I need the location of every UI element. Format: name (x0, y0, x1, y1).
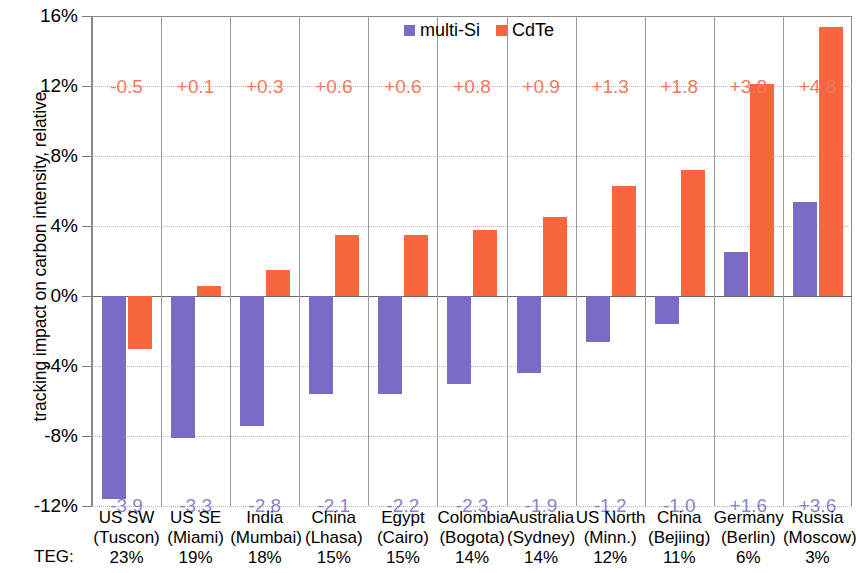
category-line2: (Moscow) (783, 528, 852, 548)
category-line1: US SW (92, 508, 161, 528)
y-tick (82, 366, 92, 367)
bar-multi-si (724, 252, 748, 296)
cdte-data-label: +0.6 (368, 76, 437, 98)
category-line1: Australia (507, 508, 576, 528)
x-axis-category: India(Mumbai)18% (230, 508, 299, 568)
cdte-data-label: +0.6 (299, 76, 368, 98)
category-line1: China (645, 508, 714, 528)
cdte-data-label: +3.8 (714, 76, 783, 98)
category-teg-value: 6% (714, 548, 783, 568)
bar-multi-si (447, 296, 471, 384)
category-teg-value: 18% (230, 548, 299, 568)
bar-cdte (612, 186, 636, 296)
cdte-data-label: +1.3 (576, 76, 645, 98)
bar-multi-si (793, 202, 817, 297)
y-tick-label: 16% (40, 5, 78, 27)
y-tick-label: -12% (34, 495, 78, 517)
bar-group: +0.8-2.3 (437, 16, 506, 506)
category-line2: (Lhasa) (299, 528, 368, 548)
y-tick-label: 0% (51, 285, 78, 307)
bar-group: +1.3-1.2 (576, 16, 645, 506)
category-line2: (Minn.) (576, 528, 645, 548)
y-tick-label: 4% (51, 215, 78, 237)
bar-multi-si (378, 296, 402, 394)
x-axis-category: US SE(Miami)19% (161, 508, 230, 568)
category-teg-value: 11% (645, 548, 714, 568)
bar-cdte (473, 230, 497, 297)
category-teg-value: 15% (368, 548, 437, 568)
legend-item-cdte: CdTe (496, 20, 554, 41)
category-line2: (Mumbai) (230, 528, 299, 548)
cdte-data-label: +1.8 (645, 76, 714, 98)
bar-multi-si (586, 296, 610, 342)
y-tick (82, 156, 92, 157)
bar-group: +0.6-2.1 (299, 16, 368, 506)
bar-cdte (266, 270, 290, 296)
bar-group: +0.1-3.3 (161, 16, 230, 506)
y-tick (82, 506, 92, 507)
category-line1: US North (576, 508, 645, 528)
legend: multi-Si CdTe (404, 20, 554, 41)
legend-swatch-multi-si (404, 25, 415, 36)
y-tick-label: 12% (40, 75, 78, 97)
category-line2: (Cairo) (368, 528, 437, 548)
x-axis-category: US North(Minn.)12% (576, 508, 645, 568)
x-axis-category: Egypt(Cairo)15% (368, 508, 437, 568)
cdte-data-label: +0.3 (230, 76, 299, 98)
y-tick (82, 86, 92, 87)
x-axis-category: Russia(Moscow)3% (783, 508, 852, 568)
category-teg-value: 3% (783, 548, 852, 568)
bar-group: +0.3-2.8 (230, 16, 299, 506)
category-line1: Egypt (368, 508, 437, 528)
category-line1: Russia (783, 508, 852, 528)
legend-swatch-cdte (496, 25, 507, 36)
bar-cdte (197, 286, 221, 297)
y-tick (82, 436, 92, 437)
cdte-data-label: +4.8 (783, 76, 852, 98)
x-axis-labels: US SW(Tuscon)23%US SE(Miami)19%India(Mum… (92, 508, 852, 573)
cdte-data-label: +0.1 (161, 76, 230, 98)
bar-multi-si (171, 296, 195, 438)
category-line2: (Bejiing) (645, 528, 714, 548)
bar-cdte (128, 296, 152, 349)
cdte-data-label: -0.5 (92, 76, 161, 98)
category-line1: Germany (714, 508, 783, 528)
bar-multi-si (102, 296, 126, 499)
category-line2: (Berlin) (714, 528, 783, 548)
y-tick-label: -4% (44, 355, 78, 377)
bar-group: +0.6-2.2 (368, 16, 437, 506)
bar-group: +3.8+1.6 (714, 16, 783, 506)
bar-group: +4.8+3.6 (783, 16, 852, 506)
category-teg-value: 14% (507, 548, 576, 568)
teg-row-label: TEG: (34, 547, 74, 567)
x-axis-category: China(Bejiing)11% (645, 508, 714, 568)
legend-label-cdte: CdTe (512, 20, 554, 41)
y-tick (82, 296, 92, 297)
bar-group: +0.9-1.9 (507, 16, 576, 506)
bar-cdte (404, 235, 428, 296)
y-tick-label: 8% (51, 145, 78, 167)
category-line1: India (230, 508, 299, 528)
cdte-data-label: +0.9 (507, 76, 576, 98)
category-line2: (Sydney) (507, 528, 576, 548)
category-line2: (Tuscon) (92, 528, 161, 548)
category-line1: US SE (161, 508, 230, 528)
category-teg-value: 15% (299, 548, 368, 568)
bar-cdte (543, 217, 567, 296)
bar-group: +1.8-1.0 (645, 16, 714, 506)
cdte-data-label: +0.8 (437, 76, 506, 98)
bar-chart: tracking impact on carbon intensity, rel… (0, 0, 860, 573)
bar-cdte (819, 27, 843, 297)
bar-multi-si (309, 296, 333, 394)
category-line2: (Bogota) (437, 528, 506, 548)
category-line1: Colombia (437, 508, 506, 528)
bar-multi-si (655, 296, 679, 324)
category-teg-value: 23% (92, 548, 161, 568)
bar-multi-si (240, 296, 264, 426)
bar-cdte (750, 84, 774, 296)
x-axis-category: Colombia(Bogota)14% (437, 508, 506, 568)
category-teg-value: 19% (161, 548, 230, 568)
legend-label-multi-si: multi-Si (420, 20, 480, 41)
bar-multi-si (517, 296, 541, 373)
category-line1: China (299, 508, 368, 528)
